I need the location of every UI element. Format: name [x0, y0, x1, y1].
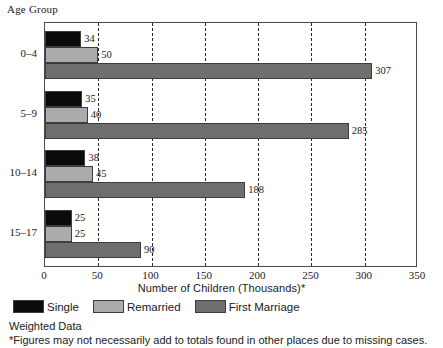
bar-remarried-15–17 — [45, 226, 72, 242]
footnote-2: *Figures may not necessarily add to tota… — [9, 334, 439, 348]
gridline-150 — [205, 23, 206, 266]
bar-value-label: 50 — [101, 47, 112, 63]
x-tick-0: 0 — [41, 269, 47, 281]
x-tick-350: 350 — [409, 269, 426, 281]
legend-swatch-remarried — [93, 300, 124, 313]
x-tick-200: 200 — [249, 269, 266, 281]
gridline-200 — [258, 23, 259, 266]
legend-item-firstmarr: First Marriage — [195, 300, 300, 313]
bar-remarried-5–9 — [45, 107, 88, 123]
bar-remarried-10–14 — [45, 166, 93, 182]
bar-value-label: 45 — [96, 166, 107, 182]
category-label-15–17: 15–17 — [0, 226, 37, 238]
bar-value-label: 40 — [91, 107, 102, 123]
chart-footnotes: Weighted Data*Figures may not necessaril… — [9, 320, 439, 347]
bar-first-marriage-5–9 — [45, 123, 349, 139]
legend-label-firstmarr: First Marriage — [229, 301, 300, 313]
bar-value-label: 90 — [144, 242, 155, 258]
legend-label-single: Single — [47, 301, 79, 313]
x-tick-150: 150 — [196, 269, 213, 281]
bar-value-label: 25 — [75, 226, 86, 242]
bar-single-0–4 — [45, 31, 81, 47]
bar-value-label: 25 — [75, 210, 86, 226]
x-tick-250: 250 — [302, 269, 319, 281]
legend-item-remarried: Remarried — [93, 300, 181, 313]
legend-item-single: Single — [13, 300, 79, 313]
legend-label-remarried: Remarried — [127, 301, 181, 313]
category-label-5–9: 5–9 — [0, 107, 37, 119]
bar-remarried-0–4 — [45, 47, 98, 63]
bar-value-label: 35 — [85, 91, 96, 107]
gridline-100 — [152, 23, 153, 266]
gridline-250 — [311, 23, 312, 266]
x-axis-title: Number of Children (Thousands)* — [0, 282, 443, 294]
age-group-axis-caption: Age Group — [7, 3, 58, 15]
x-tick-50: 50 — [92, 269, 103, 281]
gridline-50 — [98, 23, 99, 266]
bar-single-15–17 — [45, 210, 72, 226]
x-tick-300: 300 — [355, 269, 372, 281]
bar-value-label: 307 — [375, 63, 391, 79]
legend-swatch-single — [13, 300, 44, 313]
x-tick-100: 100 — [142, 269, 159, 281]
footnote-1: Weighted Data — [9, 320, 439, 334]
bar-single-5–9 — [45, 91, 82, 107]
chart-plot-area: 345030735402853845188252590 — [44, 22, 417, 267]
bar-single-10–14 — [45, 150, 85, 166]
chart-legend: SingleRemarriedFirst Marriage — [13, 300, 314, 313]
legend-swatch-firstmarr — [195, 300, 226, 313]
gridline-300 — [365, 23, 366, 266]
category-label-10–14: 10–14 — [0, 166, 37, 178]
bar-value-label: 34 — [84, 31, 95, 47]
bar-value-label: 38 — [88, 150, 99, 166]
bar-value-label: 285 — [352, 123, 368, 139]
bar-value-label: 188 — [248, 182, 264, 198]
category-label-0–4: 0–4 — [0, 47, 37, 59]
bar-first-marriage-0–4 — [45, 63, 372, 79]
x-axis-tick-labels: 050100150200250300350 — [0, 269, 443, 283]
bar-first-marriage-10–14 — [45, 182, 245, 198]
bar-first-marriage-15–17 — [45, 242, 141, 258]
